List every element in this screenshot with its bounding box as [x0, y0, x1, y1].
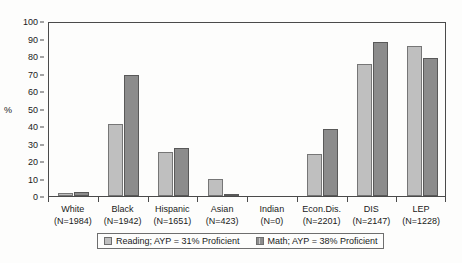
bars-container — [49, 23, 445, 196]
x-axis-category-lep: LEP(N=1228) — [402, 203, 440, 227]
y-axis-tick-label: 70 — [28, 70, 38, 79]
x-axis-category-dis: DIS(N=2147) — [352, 203, 390, 227]
legend-entry-reading: Reading; AYP = 31% Proficient — [104, 237, 240, 246]
x-axis-tick-mark — [48, 197, 49, 202]
y-axis-tick-label: 60 — [28, 88, 38, 97]
category-count: (N=423) — [206, 215, 239, 227]
reading-swatch-icon — [104, 237, 112, 245]
x-axis-tick-mark — [148, 197, 149, 202]
y-axis-tick-mark — [40, 162, 44, 163]
y-axis-tick-label: 0 — [33, 193, 38, 202]
x-axis-category-asian: Asian(N=423) — [206, 203, 239, 227]
category-name: Indian — [260, 204, 285, 214]
bar-asian-series-0 — [208, 179, 223, 197]
x-axis-category-hispanic: Hispanic(N=1651) — [153, 203, 191, 227]
legend-label: Reading; AYP = 31% Proficient — [116, 237, 240, 246]
bar-black-series-1 — [124, 75, 139, 196]
category-count: (N=1942) — [104, 215, 142, 227]
y-axis-tick-mark — [40, 179, 44, 180]
y-axis-tick-label: 40 — [28, 123, 38, 132]
bar-dis-series-0 — [357, 64, 372, 196]
y-axis-tick-mark — [40, 92, 44, 93]
plot-area — [48, 22, 446, 197]
bar-black-series-0 — [108, 124, 123, 196]
chart-legend: Reading; AYP = 31% ProficientMath; AYP =… — [97, 233, 384, 249]
category-name: DIS — [364, 204, 379, 214]
x-axis-tick-mark — [396, 197, 397, 202]
bar-chart: % 0102030405060708090100 White(N=1984)Bl… — [0, 0, 462, 263]
bar-white-series-1 — [74, 192, 89, 196]
y-axis-tick-label: 90 — [28, 35, 38, 44]
y-axis-tick-mark — [40, 57, 44, 58]
category-count: (N=1228) — [402, 215, 440, 227]
category-name: Econ.Dis. — [302, 204, 341, 214]
y-axis-tick-mark — [40, 127, 44, 128]
x-axis-tick-mark — [98, 197, 99, 202]
y-axis-tick-label: 30 — [28, 140, 38, 149]
y-axis-tick-mark — [40, 197, 44, 198]
y-axis-tick-label: 100 — [23, 18, 38, 27]
y-axis-tick-label: 20 — [28, 158, 38, 167]
y-axis-tick-mark — [40, 22, 44, 23]
bar-hispanic-series-1 — [174, 148, 189, 196]
x-axis-ticks — [48, 197, 446, 202]
category-name: Hispanic — [155, 204, 190, 214]
bar-hispanic-series-0 — [158, 152, 173, 196]
x-axis-tick-mark — [297, 197, 298, 202]
bar-econ-dis--series-0 — [307, 154, 322, 196]
x-axis-tick-mark — [347, 197, 348, 202]
y-axis: 0102030405060708090100 — [0, 22, 44, 197]
y-axis-tick-mark — [40, 74, 44, 75]
x-axis-tick-mark — [247, 197, 248, 202]
y-axis-tick-label: 80 — [28, 53, 38, 62]
bar-dis-series-1 — [373, 42, 388, 196]
x-axis-category-black: Black(N=1942) — [104, 203, 142, 227]
category-name: LEP — [413, 204, 430, 214]
math-swatch-icon — [256, 237, 264, 245]
bar-lep-series-1 — [423, 58, 438, 196]
x-axis-tick-mark — [197, 197, 198, 202]
legend-label: Math; AYP = 38% Proficient — [268, 237, 378, 246]
bar-econ-dis--series-1 — [323, 129, 338, 196]
y-axis-tick-label: 10 — [28, 175, 38, 184]
x-axis-tick-mark — [445, 197, 446, 202]
y-axis-tick-mark — [40, 144, 44, 145]
bar-asian-series-1 — [224, 194, 239, 196]
y-axis-tick-mark — [40, 109, 44, 110]
category-count: (N=1984) — [54, 215, 92, 227]
y-axis-tick-mark — [40, 39, 44, 40]
y-axis-tick-label: 50 — [28, 105, 38, 114]
category-name: White — [61, 204, 84, 214]
category-name: Black — [112, 204, 134, 214]
x-axis-category-indian: Indian(N=0) — [260, 203, 285, 227]
x-axis-labels: White(N=1984)Black(N=1942)Hispanic(N=165… — [48, 203, 446, 233]
category-name: Asian — [211, 204, 234, 214]
bar-lep-series-0 — [407, 46, 422, 196]
category-count: (N=0) — [260, 215, 285, 227]
x-axis-category-white: White(N=1984) — [54, 203, 92, 227]
x-axis-category-econ-dis-: Econ.Dis.(N=2201) — [302, 203, 341, 227]
bar-white-series-0 — [58, 193, 73, 196]
category-count: (N=2201) — [302, 215, 341, 227]
legend-entry-math: Math; AYP = 38% Proficient — [256, 237, 378, 246]
category-count: (N=1651) — [153, 215, 191, 227]
category-count: (N=2147) — [352, 215, 390, 227]
